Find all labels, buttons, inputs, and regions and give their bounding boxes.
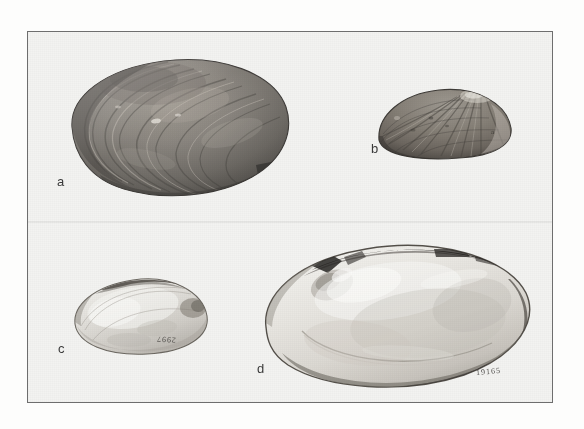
- specimen-a-image: [60, 49, 292, 205]
- figure-plate: a: [0, 0, 584, 429]
- plate-label-b: b: [371, 142, 378, 155]
- plate-frame: a: [27, 31, 553, 403]
- specimen-b-image: a: [373, 84, 515, 164]
- plate-label-a: a: [57, 175, 64, 188]
- plate-label-c: c: [58, 342, 65, 355]
- specimen-c-image: [71, 268, 213, 360]
- scan-seam: [28, 221, 552, 223]
- plate-label-d: d: [257, 362, 264, 375]
- specimen-c-catalog-number: 2997: [156, 334, 177, 343]
